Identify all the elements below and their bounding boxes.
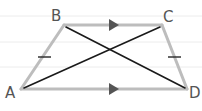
parallel-arrow-icon-ad (109, 83, 119, 95)
vertex-label-d: D (189, 84, 201, 102)
vertex-label-b: B (51, 7, 61, 25)
parallel-arrow-icon-bc (109, 19, 119, 31)
vertex-label-c: C (163, 8, 173, 26)
trapezoid-diagram: A B C D (0, 0, 202, 111)
vertex-label-a: A (5, 84, 16, 102)
